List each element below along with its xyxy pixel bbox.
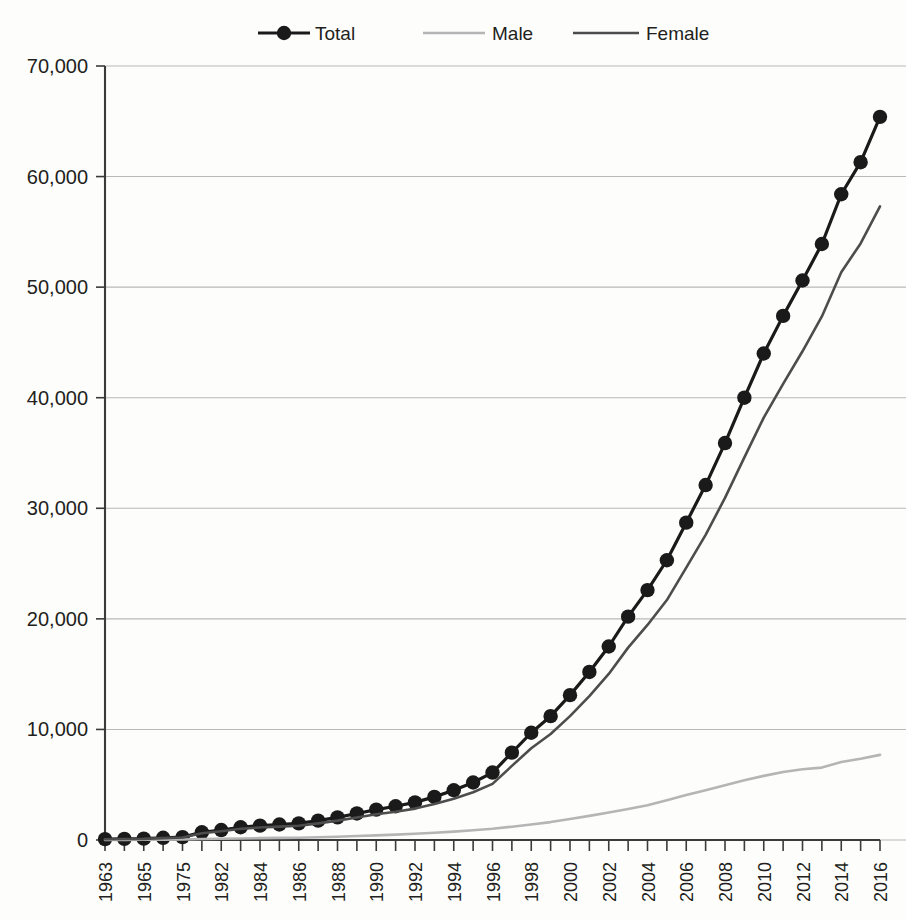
x-tick-label: 1984 bbox=[251, 862, 271, 902]
y-tick-label: 20,000 bbox=[27, 608, 88, 630]
x-tick-label: 1975 bbox=[174, 862, 194, 902]
data-point-total bbox=[292, 816, 306, 830]
data-point-total bbox=[834, 187, 848, 201]
legend-marker-total bbox=[277, 26, 291, 40]
y-tick-label: 60,000 bbox=[27, 166, 88, 188]
y-tick-label: 10,000 bbox=[27, 718, 88, 740]
x-tick-label: 2000 bbox=[561, 862, 581, 902]
line-chart: TotalMaleFemale 70,00060,00050,00040,000… bbox=[0, 0, 906, 920]
data-point-total bbox=[253, 818, 267, 832]
data-point-total bbox=[660, 553, 674, 567]
x-tick-label: 2016 bbox=[871, 862, 891, 902]
x-tick-label: 1965 bbox=[135, 862, 155, 902]
data-point-total bbox=[272, 817, 286, 831]
x-tick-label: 2012 bbox=[794, 862, 814, 902]
data-point-total bbox=[466, 775, 480, 789]
x-tick-label: 2010 bbox=[755, 862, 775, 902]
data-point-total bbox=[873, 110, 887, 124]
data-point-total bbox=[853, 155, 867, 169]
x-tick-label: 1992 bbox=[406, 862, 426, 902]
y-tick-label: 30,000 bbox=[27, 497, 88, 519]
data-point-total bbox=[776, 309, 790, 323]
x-tick-label: 1982 bbox=[212, 862, 232, 902]
data-point-total bbox=[698, 478, 712, 492]
x-tick-label: 1986 bbox=[290, 862, 310, 902]
legend-label-total: Total bbox=[315, 23, 355, 44]
chart-background bbox=[0, 0, 906, 920]
data-point-total bbox=[737, 391, 751, 405]
x-tick-label: 1996 bbox=[484, 862, 504, 902]
data-point-total bbox=[602, 639, 616, 653]
y-tick-label: 40,000 bbox=[27, 387, 88, 409]
data-point-total bbox=[447, 783, 461, 797]
legend-label-male: Male bbox=[492, 23, 533, 44]
data-point-total bbox=[757, 346, 771, 360]
chart-container: TotalMaleFemale 70,00060,00050,00040,000… bbox=[0, 0, 906, 920]
data-point-total bbox=[582, 665, 596, 679]
data-point-total bbox=[311, 813, 325, 827]
y-tick-label: 0 bbox=[77, 829, 88, 851]
data-point-total bbox=[795, 273, 809, 287]
x-tick-label: 1990 bbox=[367, 862, 387, 902]
data-point-total bbox=[543, 709, 557, 723]
data-point-total bbox=[679, 515, 693, 529]
data-point-total bbox=[563, 688, 577, 702]
y-tick-label: 50,000 bbox=[27, 276, 88, 298]
data-point-total bbox=[524, 726, 538, 740]
x-tick-label: 2008 bbox=[716, 862, 736, 902]
x-tick-label: 2004 bbox=[639, 862, 659, 902]
x-tick-label: 1994 bbox=[445, 862, 465, 902]
x-tick-label: 2002 bbox=[600, 862, 620, 902]
data-point-total bbox=[815, 237, 829, 251]
data-point-total bbox=[505, 745, 519, 759]
data-point-total bbox=[621, 609, 635, 623]
x-tick-label: 1988 bbox=[329, 862, 349, 902]
data-point-total bbox=[640, 583, 654, 597]
legend-label-female: Female bbox=[646, 23, 709, 44]
x-tick-label: 1998 bbox=[522, 862, 542, 902]
x-tick-label: 2006 bbox=[677, 862, 697, 902]
x-tick-label: 1963 bbox=[96, 862, 116, 902]
data-point-total bbox=[718, 436, 732, 450]
x-tick-label: 2014 bbox=[832, 862, 852, 902]
y-tick-label: 70,000 bbox=[27, 55, 88, 77]
